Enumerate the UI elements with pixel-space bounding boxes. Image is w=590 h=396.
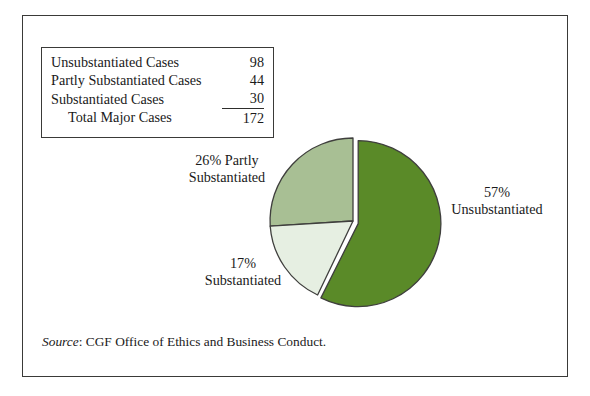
row-value-total: 172	[222, 108, 264, 127]
pie-label-substantiated: 17% Substantiated	[181, 255, 305, 289]
row-value-substantiated: 30	[222, 89, 264, 108]
pie-chart	[253, 121, 453, 321]
figure-frame: Unsubstantiated Cases 98 Partly Substant…	[22, 15, 568, 377]
row-label-unsubstantiated: Unsubstantiated Cases	[51, 53, 222, 71]
source-label: Source	[42, 334, 79, 349]
pie-label-unsubstantiated: 57% Unsubstantiated	[427, 184, 567, 218]
pie-label-substantiated-line2: Substantiated	[205, 272, 281, 288]
summary-table: Unsubstantiated Cases 98 Partly Substant…	[41, 47, 274, 138]
table-row: Partly Substantiated Cases 44	[51, 71, 264, 89]
row-value-partly-substantiated: 44	[222, 71, 264, 89]
row-value-unsubstantiated: 98	[222, 53, 264, 71]
table-row-total: Total Major Cases 172	[51, 108, 264, 127]
row-label-total: Total Major Cases	[51, 108, 222, 127]
row-label-substantiated: Substantiated Cases	[51, 89, 222, 108]
pie-slice-unsubstantiated	[321, 141, 441, 307]
source-text: : CGF Office of Ethics and Business Cond…	[79, 334, 326, 349]
row-label-partly-substantiated: Partly Substantiated Cases	[51, 71, 222, 89]
pie-label-partly-substantiated: 26% Partly Substantiated	[163, 152, 291, 186]
pie-label-substantiated-line1: 17%	[230, 255, 256, 271]
table-row: Substantiated Cases 30	[51, 89, 264, 108]
pie-label-partly-line1: 26% Partly	[195, 152, 258, 168]
pie-label-unsubstantiated-line2: Unsubstantiated	[451, 201, 542, 217]
pie-label-unsubstantiated-line1: 57%	[484, 184, 510, 200]
table-row: Unsubstantiated Cases 98	[51, 53, 264, 71]
pie-label-partly-line2: Substantiated	[189, 169, 265, 185]
source-note: Source: CGF Office of Ethics and Busines…	[42, 334, 326, 350]
case-counts-table: Unsubstantiated Cases 98 Partly Substant…	[51, 53, 264, 127]
